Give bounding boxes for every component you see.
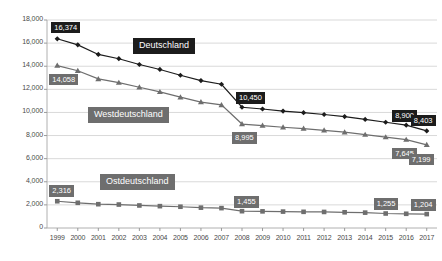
data-point-marker <box>75 201 80 206</box>
data-point-marker <box>383 211 388 216</box>
data-point-marker <box>301 210 306 215</box>
y-axis-tick-label: 2,000 <box>0 200 43 207</box>
data-point-marker <box>178 204 183 209</box>
x-axis-tick-label: 2017 <box>415 234 439 241</box>
data-point-label: 1,455 <box>234 196 259 208</box>
data-point-marker <box>158 204 163 209</box>
data-point-marker <box>96 52 101 57</box>
y-axis-tick-label: 14,000 <box>0 61 43 68</box>
data-point-marker <box>178 73 183 78</box>
data-point-marker <box>198 78 203 83</box>
data-point-marker <box>117 202 122 207</box>
y-axis-tick-label: 8,000 <box>0 131 43 138</box>
data-point-marker <box>55 36 60 41</box>
data-point-marker <box>137 203 142 208</box>
data-point-label: 16,374 <box>51 22 80 34</box>
series-annotation-deutschland: Deutschland <box>133 38 195 54</box>
series-annotation-westdeutschland: Westdeutschland <box>88 107 169 123</box>
y-axis-tick-label: 12,000 <box>0 84 43 91</box>
data-point-marker <box>322 210 327 215</box>
data-point-marker <box>240 209 245 214</box>
data-point-label: 10,450 <box>236 92 265 104</box>
data-point-label: 1,204 <box>411 199 436 211</box>
data-point-marker <box>363 210 368 215</box>
data-point-label: 2,316 <box>49 185 74 197</box>
data-point-marker <box>219 206 224 211</box>
data-point-label: 7,199 <box>409 154 434 166</box>
y-axis-tick-label: 10,000 <box>0 107 43 114</box>
data-point-marker <box>383 120 388 125</box>
y-axis-tick-label: 0 <box>0 223 43 230</box>
data-point-label: 14,058 <box>49 74 78 86</box>
data-point-label: 8,403 <box>411 115 436 127</box>
data-point-marker <box>116 56 121 61</box>
data-point-marker <box>281 209 286 214</box>
series-annotation-ostdeutschland: Ostdeutschland <box>100 174 175 190</box>
data-point-marker <box>260 106 265 111</box>
data-point-marker <box>404 211 409 216</box>
data-point-marker <box>424 212 429 217</box>
data-point-marker <box>260 209 265 214</box>
y-axis-tick-label: 18,000 <box>0 15 43 22</box>
data-point-marker <box>301 110 306 115</box>
data-point-marker <box>404 123 409 128</box>
data-point-marker <box>342 114 347 119</box>
data-point-marker <box>342 210 347 215</box>
y-axis-tick-label: 4,000 <box>0 177 43 184</box>
data-point-marker <box>96 202 101 207</box>
y-axis-tick-label: 6,000 <box>0 154 43 161</box>
data-point-label: 8,995 <box>232 132 257 144</box>
data-point-marker <box>55 199 60 204</box>
data-point-marker <box>199 205 204 210</box>
data-point-marker <box>363 117 368 122</box>
chart-container: 02,0004,0006,0008,00010,00012,00014,0001… <box>0 0 442 261</box>
data-point-marker <box>157 67 162 72</box>
data-point-label: 1,255 <box>374 198 399 210</box>
data-point-marker <box>54 63 60 68</box>
y-axis-tick-label: 16,000 <box>0 38 43 45</box>
chart-plot-area <box>0 0 442 261</box>
data-point-marker <box>424 128 429 133</box>
